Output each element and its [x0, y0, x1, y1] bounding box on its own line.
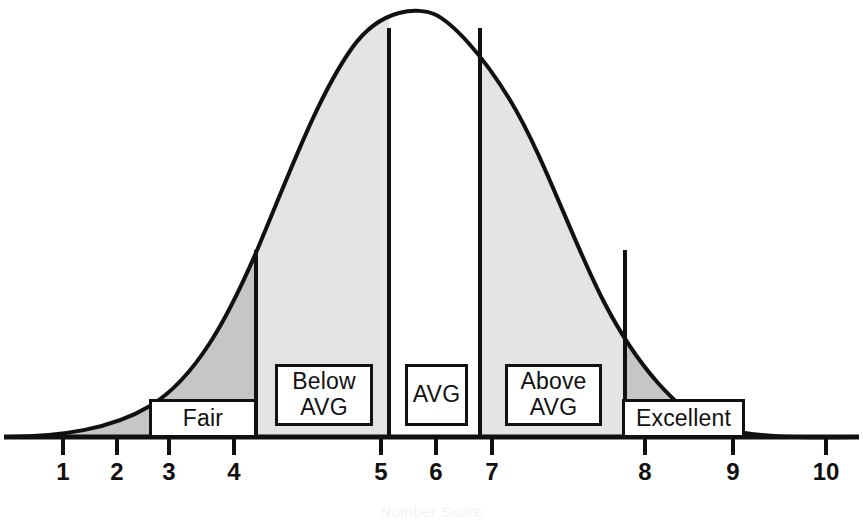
axis-label-7: 7 — [485, 458, 498, 486]
axis-label-6: 6 — [429, 458, 442, 486]
axis-label-4: 4 — [227, 458, 240, 486]
bell-curve-graphic — [0, 0, 863, 522]
axis-label-1: 1 — [56, 458, 69, 486]
axis-label-10: 10 — [813, 458, 840, 486]
axis-caption: Number Score — [0, 503, 863, 520]
zone-label-avg: AVG — [405, 364, 468, 426]
zone-label-excellent: Excellent — [622, 399, 745, 438]
axis-label-9: 9 — [726, 458, 739, 486]
axis-label-8: 8 — [638, 458, 651, 486]
x-axis-ticks — [63, 437, 826, 455]
bell-curve-figure: Fair Below AVG AVG Above AVG Excellent 1… — [0, 0, 863, 522]
zone-label-below-avg: Below AVG — [275, 364, 373, 426]
zone-label-above-avg: Above AVG — [505, 364, 602, 426]
axis-label-5: 5 — [374, 458, 387, 486]
axis-label-2: 2 — [110, 458, 123, 486]
zone-label-fair: Fair — [149, 399, 257, 438]
axis-label-3: 3 — [162, 458, 175, 486]
